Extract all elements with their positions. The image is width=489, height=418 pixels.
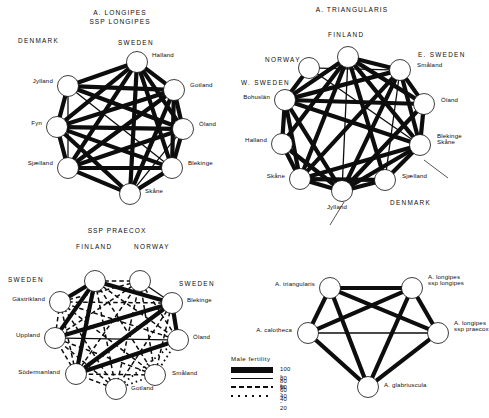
legend-key-dashed-long xyxy=(231,383,275,392)
node-label-oland2: Öland xyxy=(441,97,458,103)
node-norway[interactable] xyxy=(299,58,320,79)
node-label-smaland: Småland xyxy=(417,62,442,68)
node-label-skane: Skåne xyxy=(145,188,163,194)
node-label-s_tri: A. triangularis xyxy=(0,281,315,287)
node-label-s_gla: A. glabriuscula xyxy=(384,382,427,388)
node-s_lonl[interactable] xyxy=(402,278,423,299)
region-label: FINLAND xyxy=(328,32,364,39)
node-label-bohuslan: Bohuslän xyxy=(0,94,270,100)
edge xyxy=(421,113,423,135)
node-label-s_lonl: A. longipesssp longipes xyxy=(428,274,464,287)
legend-title: Male fertility xyxy=(231,355,271,362)
node-label-fyn: Fyn xyxy=(0,120,42,126)
edge xyxy=(283,109,285,134)
node-label-p_soder: Södermanland xyxy=(0,369,60,375)
edge xyxy=(375,339,430,382)
node-p_gastrik[interactable] xyxy=(50,292,71,313)
node-s_gla[interactable] xyxy=(358,377,379,398)
legend-label: 40 - 20 xyxy=(280,393,287,411)
node-p_blekinge[interactable] xyxy=(162,293,183,314)
leader-line xyxy=(424,160,448,178)
node-label-p_blekinge: Blekinge xyxy=(187,297,212,303)
node-skane[interactable] xyxy=(120,184,141,205)
node-jylland2[interactable] xyxy=(332,181,353,202)
edge xyxy=(64,338,168,340)
node-blekskane[interactable] xyxy=(410,135,431,156)
node-label-sjaelland: Sjælland xyxy=(0,160,53,166)
node-label-sjaelland2: Sjælland xyxy=(402,173,427,179)
edge xyxy=(294,103,411,142)
node-oland2[interactable] xyxy=(414,94,435,115)
node-label-p_oland: Öland xyxy=(193,334,210,340)
node-label-p_gotland: Gotland xyxy=(131,385,154,391)
panel-title-panel-triangularis: A. TRIANGULARIS xyxy=(282,7,422,14)
node-label-s_cal: A. calotheca xyxy=(0,327,292,333)
legend-key-dotted-short xyxy=(231,392,275,401)
node-p_smaland[interactable] xyxy=(145,365,166,386)
node-label-p_gastrik: Gästrikland xyxy=(0,296,45,302)
node-label-skanew: Skåne xyxy=(0,173,285,179)
region-label: FINLAND xyxy=(76,244,112,251)
node-label-oland: Öland xyxy=(199,121,216,127)
region-label: SWEDEN xyxy=(118,40,154,47)
legend-row: 100 - 80 % xyxy=(231,365,271,374)
node-s_cal[interactable] xyxy=(298,323,319,344)
node-label-p_smaland: Småland xyxy=(172,370,197,376)
region-label: NORWAY xyxy=(134,244,170,251)
legend-key-solid-thick xyxy=(231,365,275,374)
edge xyxy=(69,302,162,303)
node-smaland[interactable] xyxy=(390,60,411,81)
node-label-blekinge: Blekinge xyxy=(188,160,213,166)
node-halland[interactable] xyxy=(127,52,148,73)
region-label: DENMARK xyxy=(390,200,431,207)
node-s_tri[interactable] xyxy=(320,278,341,299)
node-label-sub: ssp longipes xyxy=(428,280,464,286)
legend-row: 40 - 20 xyxy=(231,392,271,401)
region-label: E. SWEDEN xyxy=(418,52,466,59)
edge xyxy=(160,348,173,367)
edge xyxy=(60,346,72,366)
node-label-blekskane: BlekingeSkåne xyxy=(437,133,462,146)
edge xyxy=(417,296,434,325)
node-label-s_lonp: A. longipesssp praecox xyxy=(454,320,489,333)
region-label: NORWAY xyxy=(265,57,301,64)
node-label-halland2: Halland xyxy=(0,137,267,143)
edge xyxy=(85,377,108,385)
edge xyxy=(309,179,375,180)
node-s_lonp[interactable] xyxy=(428,323,449,344)
node-halland2[interactable] xyxy=(272,134,293,155)
node-fyn[interactable] xyxy=(47,117,68,138)
legend: Male fertility 100 - 80 % 80 - 60 60 - 4… xyxy=(231,355,271,401)
panel-title-panel-longipes: A. LONGIPES xyxy=(50,10,190,17)
region-label: DENMARK xyxy=(18,38,59,45)
panel-subtitle-panel-longipes: SSP LONGIPES xyxy=(50,19,190,26)
node-label-gotland: Gotland xyxy=(190,82,213,88)
node-sjaelland2[interactable] xyxy=(375,170,396,191)
region-label: W. SWEDEN xyxy=(241,80,290,87)
node-finland[interactable] xyxy=(338,47,359,68)
legend-key-solid-thin xyxy=(231,374,275,383)
node-bohuslan[interactable] xyxy=(275,90,296,111)
node-label-jylland2: Jylland xyxy=(297,204,377,210)
node-label-sub: ssp praecox xyxy=(454,326,489,332)
legend-row: 80 - 60 xyxy=(231,374,271,383)
node-label-halland: Halland xyxy=(152,52,174,58)
panel-title-panel-praecox: SSP PRAECOX xyxy=(47,228,187,235)
node-p_gotland[interactable] xyxy=(106,379,127,400)
edge xyxy=(312,296,326,324)
node-label-jylland: Jylland xyxy=(0,78,53,84)
node-skanew[interactable] xyxy=(290,169,311,190)
edge xyxy=(85,374,145,375)
legend-row: 60 - 40 xyxy=(231,383,271,392)
node-label-sub: Skåne xyxy=(437,139,462,145)
node-p_soder[interactable] xyxy=(66,364,87,385)
